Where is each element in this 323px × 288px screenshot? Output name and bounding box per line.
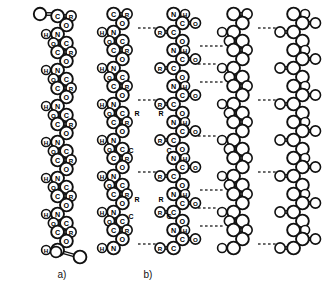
atom-hydrogen (98, 136, 107, 145)
atom-backbone (227, 242, 240, 255)
free-label-c: C (166, 213, 171, 220)
atom-terminal-o (34, 8, 46, 20)
atom-oxygen (310, 234, 320, 244)
free-label-r: R (134, 110, 139, 117)
atom-r-group (275, 171, 285, 181)
atom-hydrogen (218, 100, 227, 109)
atom-hydrogen (98, 64, 107, 73)
atom-hydrogen (218, 208, 227, 217)
atom-hydrogen (98, 100, 107, 109)
atom-hydrogen (98, 172, 107, 181)
atom-hydrogen (218, 244, 227, 253)
atom-hydrogen (218, 136, 227, 145)
atom-terminal-o (74, 251, 87, 264)
atom-r-group (275, 99, 285, 109)
atom-oxygen (310, 18, 320, 28)
atom-r-group (155, 135, 165, 145)
atom-hydrogen (98, 208, 107, 217)
atom-r-group (275, 207, 285, 217)
free-label-c: C (128, 213, 133, 220)
panel-label-b: b) (144, 269, 153, 280)
atom-hydrogen (42, 210, 51, 219)
free-label-r: R (134, 196, 139, 203)
atom-oxygen (190, 54, 200, 64)
atom-oxygen (190, 18, 200, 28)
atom-oxygen (190, 234, 200, 244)
atom-r-group (275, 27, 285, 37)
atom-r-group (155, 243, 165, 253)
atom-oxygen (310, 90, 320, 100)
atom-hydrogen (42, 30, 51, 39)
atom-hydrogen (42, 66, 51, 75)
atom-r-group (155, 63, 165, 73)
atom-hydrogen (42, 138, 51, 147)
atom-hydrogen (218, 28, 227, 37)
atom-oxygen (190, 198, 200, 208)
peptide-chain-figure: RCOHNOCRCOHNOCRCOHNOCRCOHNOCRCOHNOCRCOHN… (0, 0, 323, 288)
atom-oxygen (190, 126, 200, 136)
atom-r-group (155, 207, 165, 217)
atom-hydrogen (98, 244, 107, 253)
atom-hydrogen (218, 172, 227, 181)
atom-hydrogen (98, 28, 107, 37)
atom-hydrogen (42, 174, 51, 183)
atom-r-group (275, 243, 285, 253)
atom-r-group (155, 27, 165, 37)
atom-oxygen (190, 90, 200, 100)
free-label-r: R (158, 110, 163, 117)
atom-hydrogen (42, 102, 51, 111)
atom-oxygen (310, 198, 320, 208)
atom-terminal (51, 247, 62, 258)
atom-hydrogen (42, 246, 51, 255)
free-label-c: C (128, 147, 133, 154)
atom-backbone (287, 242, 300, 255)
atom-backbone (167, 242, 180, 255)
atom-r-group (275, 135, 285, 145)
free-label-c: C (166, 147, 171, 154)
free-label-r: R (158, 196, 163, 203)
atom-backbone (107, 242, 120, 255)
atom-r-group (155, 99, 165, 109)
atom-r-group (275, 63, 285, 73)
atom-hydrogen (218, 64, 227, 73)
panel-label-a: a) (58, 269, 67, 280)
atom-oxygen (310, 162, 320, 172)
atom-oxygen (190, 162, 200, 172)
atom-oxygen (310, 126, 320, 136)
atom-r-group (155, 171, 165, 181)
atom-oxygen (310, 54, 320, 64)
